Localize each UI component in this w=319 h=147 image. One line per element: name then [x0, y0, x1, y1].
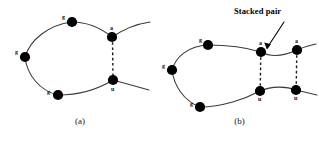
- strand-end-lower: [113, 80, 149, 90]
- stacked-pair-arrow: [264, 22, 284, 50]
- panel-a-caption: (a): [0, 116, 160, 126]
- nucleotide-node: [20, 52, 30, 62]
- nucleotide-node: [195, 102, 205, 112]
- backbone-segment: [172, 45, 208, 70]
- rna-structure-figure: g g g a u (a): [0, 0, 319, 147]
- node-label-g: g: [199, 37, 202, 43]
- node-label-u: u: [111, 86, 114, 92]
- base-pair-dashed-line: [296, 50, 297, 90]
- node-label-g: g: [190, 101, 193, 107]
- backbone-segment: [208, 45, 261, 52]
- node-label-g: g: [162, 63, 165, 69]
- node-label-a: a: [110, 25, 113, 31]
- node-label-g: g: [47, 89, 50, 95]
- node-label-a: a: [295, 38, 298, 44]
- nucleotide-node: [256, 47, 266, 57]
- backbone-segment: [58, 80, 113, 95]
- node-label-u: u: [258, 96, 261, 102]
- backbone-segment: [172, 70, 200, 107]
- node-label-a: a: [259, 40, 262, 46]
- node-label-u: u: [294, 95, 297, 101]
- base-pair-dashed-line: [113, 37, 114, 80]
- nucleotide-node: [107, 32, 117, 42]
- nucleotide-node: [255, 86, 265, 96]
- backbone-segment: [200, 91, 260, 107]
- nucleotide-node: [53, 90, 63, 100]
- nucleotide-node: [108, 75, 118, 85]
- backbone-segment: [25, 22, 72, 57]
- strand-end-upper: [112, 22, 150, 37]
- node-label-g: g: [15, 49, 18, 55]
- nucleotide-node: [203, 40, 213, 50]
- nucleotide-node: [292, 45, 302, 55]
- panel-b: Stacked pair g g g a a u u (b): [160, 0, 319, 147]
- backbone-segment: [25, 57, 58, 95]
- nucleotide-node: [67, 17, 77, 27]
- nucleotide-node: [167, 65, 177, 75]
- backbone-segment: [72, 22, 112, 37]
- panel-a: g g g a u (a): [0, 0, 160, 147]
- panel-b-caption: (b): [160, 116, 319, 126]
- node-label-g: g: [62, 14, 65, 20]
- nucleotide-node: [291, 85, 301, 95]
- stacked-pair-annotation-label: Stacked pair: [234, 6, 281, 16]
- backbone-segment-stacked: [261, 50, 297, 55]
- base-pair-dashed-line: [260, 52, 261, 91]
- backbone-segment-stacked: [260, 87, 296, 91]
